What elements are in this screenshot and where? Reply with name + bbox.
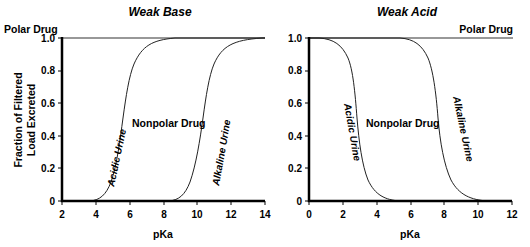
svg-text:4: 4: [93, 209, 99, 220]
alkaline-urine-label: Alkaline Urine: [210, 118, 233, 187]
svg-text:6: 6: [127, 209, 133, 220]
alkaline-urine-label: Alkaline Urine: [451, 94, 476, 163]
svg-text:Load Excreted: Load Excreted: [25, 84, 37, 156]
y-axis-ticks: 1.0 0.8 0.6 0.4 0.2 0: [41, 33, 62, 207]
svg-text:1.0: 1.0: [41, 33, 55, 44]
svg-text:0.2: 0.2: [288, 163, 302, 174]
chart-title: Weak Acid: [377, 5, 438, 19]
svg-text:2: 2: [59, 209, 65, 220]
svg-text:Fraction of Filtered: Fraction of Filtered: [12, 72, 24, 167]
chart-weak-base: Weak Base Polar Drug 1.0 0.8 0.6 0.4 0.2…: [4, 5, 271, 240]
svg-text:12: 12: [225, 209, 237, 220]
figure-canvas: Fraction of Filtered Load Excreted Weak …: [0, 0, 530, 247]
svg-text:0.2: 0.2: [41, 163, 55, 174]
svg-text:0: 0: [306, 209, 312, 220]
svg-text:8: 8: [441, 209, 447, 220]
svg-text:0.4: 0.4: [288, 131, 302, 142]
acidic-urine-label: Acidic Urine: [105, 128, 128, 189]
svg-text:0: 0: [296, 196, 302, 207]
acidic-urine-label: Acidic Urine: [342, 101, 363, 162]
svg-text:1.0: 1.0: [288, 33, 302, 44]
svg-text:0.6: 0.6: [288, 98, 302, 109]
x-axis-ticks: 2 4 6 8 10 12 14: [59, 201, 271, 220]
x-axis-title: pKa: [400, 228, 420, 240]
svg-text:12: 12: [506, 209, 518, 220]
svg-text:6: 6: [408, 209, 414, 220]
chart-title: Weak Base: [128, 5, 191, 19]
y-axis-ticks: 1.0 0.8 0.6 0.4 0.2 0: [288, 33, 309, 207]
svg-text:0: 0: [49, 196, 55, 207]
svg-text:14: 14: [259, 209, 271, 220]
nonpolar-drug-label: Nonpolar Drug: [366, 117, 440, 129]
x-axis-ticks: 0 2 4 6 8 10 12: [306, 201, 518, 220]
svg-text:2: 2: [340, 209, 346, 220]
chart-weak-acid: Weak Acid Polar Drug 1.0 0.8 0.6 0.4 0.2…: [288, 5, 518, 240]
svg-text:10: 10: [472, 209, 484, 220]
svg-text:10: 10: [191, 209, 203, 220]
x-axis-title: pKa: [153, 228, 173, 240]
y-axis-title: Fraction of Filtered Load Excreted: [12, 72, 37, 167]
svg-text:4: 4: [374, 209, 380, 220]
nonpolar-drug-label: Nonpolar Drug: [132, 117, 206, 129]
svg-text:0.4: 0.4: [41, 131, 55, 142]
svg-text:0.8: 0.8: [288, 65, 302, 76]
polar-drug-label: Polar Drug: [459, 23, 513, 35]
svg-text:0.6: 0.6: [41, 98, 55, 109]
svg-text:8: 8: [161, 209, 167, 220]
svg-text:0.8: 0.8: [41, 65, 55, 76]
